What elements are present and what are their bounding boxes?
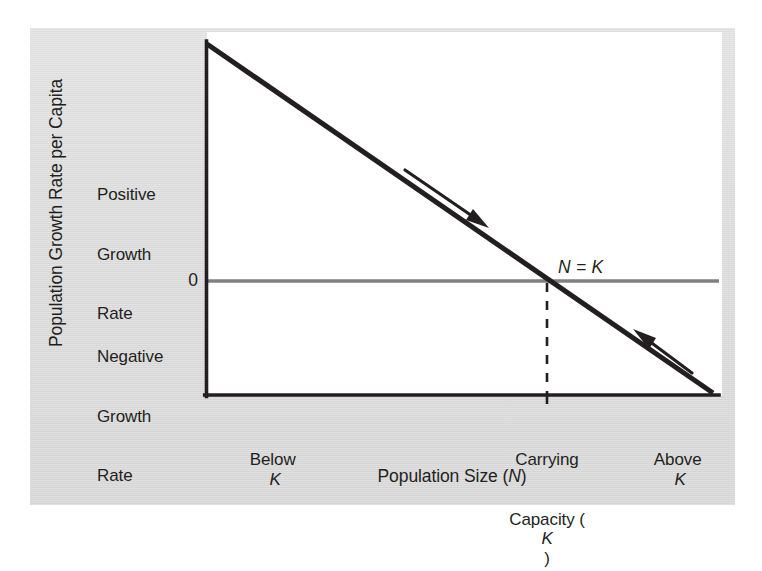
equilibrium-operator: = [571, 257, 592, 277]
x-category-carrying-suffix: ) [462, 549, 632, 569]
y-axis-title: Population Growth Rate per Capita [46, 18, 68, 408]
x-category-below-k-line: Below K [190, 450, 360, 489]
negative-zone-line-3: Rate [97, 466, 163, 486]
equilibrium-n-symbol: N [558, 257, 571, 277]
x-category-carrying-line-1: Carrying [462, 450, 632, 470]
negative-zone-line-2: Growth [97, 407, 163, 427]
positive-zone-line-1: Positive [97, 185, 156, 205]
x-category-above-k: Above K [610, 411, 750, 529]
x-category-carrying-prefix: Capacity ( [462, 510, 632, 530]
x-category-above-k-line: Above K [610, 450, 750, 489]
arrow-toward-k-from-above-icon [633, 329, 692, 373]
zero-axis-tick-label: 0 [172, 270, 198, 290]
x-category-carrying-line-2: Capacity (K) [462, 510, 632, 569]
x-category-above-k-text: Above [610, 450, 750, 470]
x-category-carrying-symbol: K [541, 529, 552, 548]
x-category-above-k-symbol: K [674, 470, 685, 489]
x-category-below-k-text: Below [190, 450, 360, 470]
growth-rate-line [207, 44, 713, 393]
negative-growth-zone-label: Negative Growth Rate [97, 308, 163, 525]
negative-zone-line-1: Negative [97, 347, 163, 367]
x-category-carrying-capacity: Carrying Capacity (K) [462, 411, 632, 571]
equilibrium-annotation-label: N = K [558, 257, 603, 277]
arrow-toward-k-from-below-icon [405, 170, 489, 228]
equilibrium-k-symbol: K [591, 257, 603, 277]
x-category-below-k: Below K [190, 411, 360, 529]
positive-zone-line-2: Growth [97, 245, 156, 265]
x-category-below-k-symbol: K [269, 470, 280, 489]
